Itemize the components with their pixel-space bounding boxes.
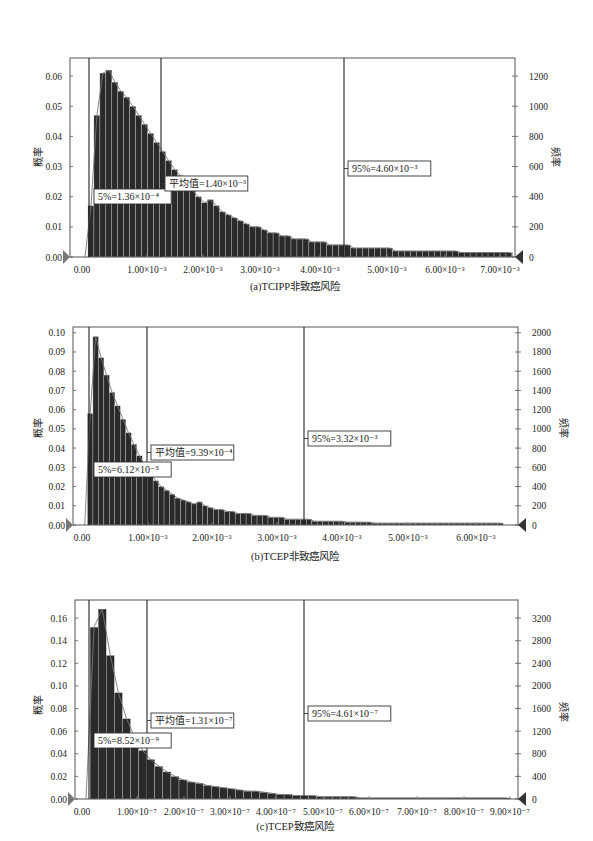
caption-b: (b)TCEP非致癌风险 [251,550,340,563]
labels-layer: (a)TCIPP非致癌风险 概率 频率 (b)TCEP非致癌风险 概率 频率 (… [0,0,593,841]
ylabel-right-c: 频率 [558,702,570,722]
ylabel-right-b: 频率 [558,418,570,438]
caption-c: (c)TCEP致癌风险 [256,820,334,833]
caption-a: (a)TCIPP非致癌风险 [250,280,341,293]
ylabel-right-a: 频率 [550,147,562,167]
ylabel-left-c: 概率 [32,695,44,715]
ylabel-left-b: 概率 [32,418,44,438]
ylabel-left-a: 概率 [32,147,44,167]
